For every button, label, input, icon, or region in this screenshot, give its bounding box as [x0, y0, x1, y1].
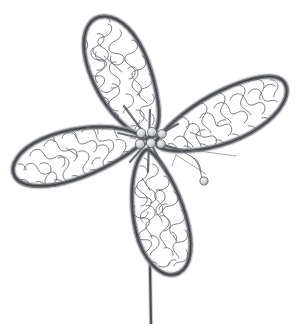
center-bead [147, 127, 156, 136]
center-bead [136, 128, 145, 137]
dangle-bead [200, 177, 208, 185]
center-bead [158, 130, 167, 139]
flower-line-art [0, 0, 298, 325]
illustration-canvas: A simple black and white line drawing of… [0, 0, 298, 325]
center-bead [157, 140, 166, 149]
center-bead [135, 139, 144, 148]
center-bead [146, 138, 155, 147]
